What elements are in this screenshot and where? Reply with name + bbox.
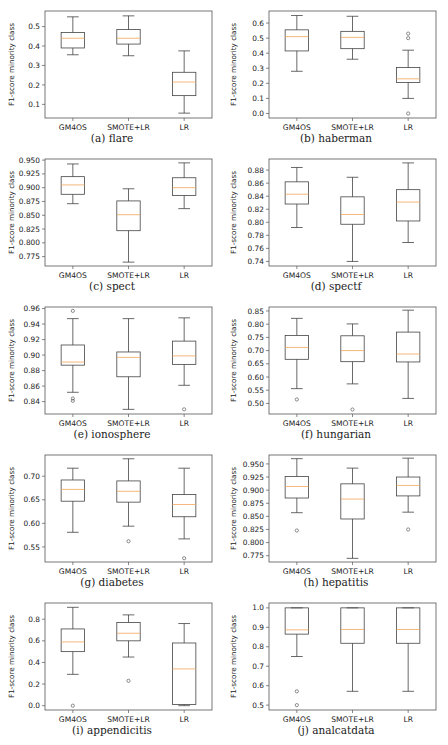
y-axis-label: F1-score minority class <box>7 171 16 254</box>
box-gm4os: GM4OS <box>59 607 87 724</box>
panel-hungarian: 0.500.550.600.650.700.750.800.85F1-score… <box>224 296 448 444</box>
panel-flare: 0.10.20.30.40.5F1-score minority classGM… <box>0 0 224 148</box>
y-tick-label: 0.7 <box>252 662 264 671</box>
y-axis-label: F1-score minority class <box>229 615 238 698</box>
y-tick-label: 0.2 <box>252 79 264 88</box>
x-tick-label: GM4OS <box>283 123 311 132</box>
box-lr: LR <box>172 468 195 576</box>
x-tick-label: SMOTE+LR <box>331 715 374 724</box>
y-tick-label: 0.900 <box>243 486 264 495</box>
y-tick-label: 1.0 <box>252 603 264 612</box>
x-tick-label: SMOTE+LR <box>331 567 374 576</box>
y-tick-label: 0.925 <box>243 473 264 482</box>
y-tick-label: 0.88 <box>24 366 41 375</box>
y-axis-label: F1-score minority class <box>7 319 16 402</box>
x-tick-label: SMOTE+LR <box>107 123 150 132</box>
y-tick-label: 0.3 <box>252 64 264 73</box>
y-tick-label: 0.6 <box>28 636 40 645</box>
box-lr: LR <box>172 51 195 132</box>
x-tick-label: GM4OS <box>59 123 87 132</box>
y-tick-label: 0.875 <box>19 197 40 206</box>
boxplot-figure-grid: 0.10.20.30.40.5F1-score minority classGM… <box>0 0 448 745</box>
y-axis: 0.500.550.600.650.700.750.800.85 <box>248 307 269 408</box>
y-tick-label: 0.82 <box>248 205 264 214</box>
y-axis: 0.00.20.40.60.8 <box>28 615 45 710</box>
y-axis: 0.00.10.20.30.40.50.6 <box>252 19 269 118</box>
x-tick-label: LR <box>403 567 413 576</box>
x-tick-label: GM4OS <box>283 567 311 576</box>
y-tick-label: 0.8 <box>252 642 264 651</box>
panel-spectf: 0.740.760.780.800.820.840.860.88F1-score… <box>224 148 448 296</box>
y-tick-label: 0.5 <box>28 22 40 31</box>
boxplot-chart: 0.00.20.40.60.8F1-score minority classGM… <box>0 592 224 722</box>
outlier-point <box>183 557 186 560</box>
y-tick-label: 0.85 <box>248 307 265 316</box>
y-tick-label: 0.1 <box>28 100 40 109</box>
box-smote-lr: SMOTE+LR <box>107 615 150 724</box>
x-tick-label: LR <box>403 715 413 724</box>
panel-caption: (b) haberman <box>224 132 448 144</box>
outlier-point <box>71 704 74 707</box>
y-axis: 0.7750.8000.8250.8500.8750.9000.9250.950 <box>19 156 45 262</box>
y-tick-label: 0.0 <box>252 109 264 118</box>
y-axis-label: F1-score minority class <box>229 171 238 254</box>
box-gm4os: GM4OS <box>59 468 87 576</box>
box-lr: LR <box>396 32 419 132</box>
y-tick-label: 0.50 <box>248 399 265 408</box>
y-tick-label: 0.2 <box>28 81 40 90</box>
panel-analcatdata: 0.50.60.70.80.91.0F1-score minority clas… <box>224 592 448 740</box>
y-axis-label: F1-score minority class <box>7 23 16 106</box>
x-tick-label: GM4OS <box>283 419 311 428</box>
panel-caption: (h) hepatitis <box>224 576 448 588</box>
y-tick-label: 0.84 <box>248 192 265 201</box>
x-tick-label: LR <box>179 271 189 280</box>
y-axis: 0.740.760.780.800.820.840.860.88 <box>248 166 269 266</box>
y-tick-label: 0.950 <box>19 156 40 165</box>
box-smote-lr: SMOTE+LR <box>107 16 150 132</box>
y-tick-label: 0.2 <box>28 680 40 689</box>
x-tick-label: LR <box>403 419 413 428</box>
panel-diabetes: 0.550.600.650.70F1-score minority classG… <box>0 444 224 592</box>
y-axis: 0.50.60.70.80.91.0 <box>252 603 269 709</box>
box-smote-lr: SMOTE+LR <box>331 468 374 576</box>
y-tick-label: 0.65 <box>24 495 41 504</box>
box-gm4os: GM4OS <box>59 309 87 428</box>
y-tick-label: 0.80 <box>248 218 265 227</box>
box-gm4os: GM4OS <box>283 16 311 132</box>
outlier-point <box>71 397 74 400</box>
x-tick-label: SMOTE+LR <box>107 715 150 724</box>
y-tick-label: 0.850 <box>19 211 40 220</box>
outlier-point <box>295 704 298 707</box>
y-tick-label: 0.94 <box>24 320 41 329</box>
box-lr: LR <box>172 318 195 428</box>
x-tick-label: SMOTE+LR <box>107 419 150 428</box>
y-tick-label: 0.60 <box>24 519 41 528</box>
y-tick-label: 0.55 <box>24 543 41 552</box>
y-tick-label: 0.78 <box>248 231 265 240</box>
box-gm4os: GM4OS <box>283 459 311 576</box>
panel-haberman: 0.00.10.20.30.40.50.6F1-score minority c… <box>224 0 448 148</box>
box-gm4os: GM4OS <box>59 164 87 280</box>
y-tick-label: 0.90 <box>24 351 41 360</box>
x-tick-label: LR <box>403 271 413 280</box>
outlier-point <box>71 309 74 312</box>
panel-caption: (g) diabetes <box>0 576 224 588</box>
y-tick-label: 0.86 <box>24 382 41 391</box>
box-smote-lr: SMOTE+LR <box>331 608 374 724</box>
x-tick-label: LR <box>403 123 413 132</box>
y-tick-label: 0.950 <box>243 460 264 469</box>
x-tick-label: SMOTE+LR <box>107 271 150 280</box>
y-tick-label: 0.875 <box>243 499 264 508</box>
y-tick-label: 0.74 <box>248 257 265 266</box>
boxplot-chart: 0.500.550.600.650.700.750.800.85F1-score… <box>224 296 448 426</box>
box-lr: LR <box>172 624 195 724</box>
panel-hepatitis: 0.7750.8000.8250.8500.8750.9000.9250.950… <box>224 444 448 592</box>
outlier-point <box>295 690 298 693</box>
y-tick-label: 0.825 <box>19 225 40 234</box>
x-tick-label: GM4OS <box>59 419 87 428</box>
y-tick-label: 0.88 <box>248 166 265 175</box>
y-tick-label: 0.3 <box>28 61 40 70</box>
outlier-point <box>407 528 410 531</box>
boxplot-chart: 0.740.760.780.800.820.840.860.88F1-score… <box>224 148 448 278</box>
x-tick-label: GM4OS <box>59 271 87 280</box>
